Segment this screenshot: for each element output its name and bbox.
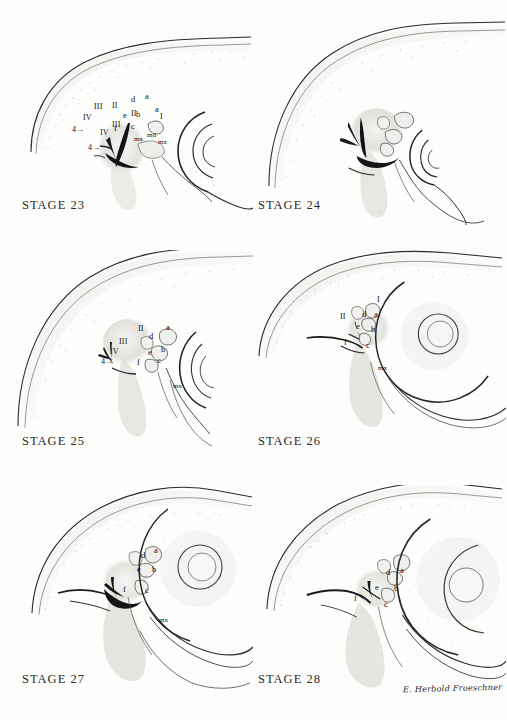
anatomy-label-stage-24-arch4: 4→ <box>72 126 84 134</box>
anatomy-label-stage-24-mx: mx <box>134 136 143 143</box>
anatomy-label-stage-25-IV: IV <box>110 348 119 356</box>
panel-artwork-stage-28 <box>253 485 506 690</box>
anatomy-label-stage-25-mx: mx <box>173 383 182 390</box>
stage-caption-23: STAGE 23 <box>22 198 85 213</box>
stage-caption-24: STAGE 24 <box>258 198 321 213</box>
anatomy-label-stage-24-d: d <box>131 95 135 104</box>
anatomy-label-stage-25-III: III <box>119 338 128 346</box>
panel-artwork-stage-24 <box>253 20 506 225</box>
anatomy-label-stage-28-a: a <box>400 566 404 575</box>
anatomy-label-stage-27-e: e <box>137 565 141 574</box>
anatomy-label-stage-28-d: d <box>386 568 390 577</box>
anatomy-label-stage-25-arch4: 4→ <box>101 358 113 366</box>
anatomy-label-stage-27-a: a <box>154 546 158 555</box>
panel-artwork-stage-27 <box>0 485 253 690</box>
anatomy-label-stage-24-II: II <box>112 102 118 110</box>
anatomy-label-stage-24-c: c <box>131 122 135 131</box>
panel-artwork-stage-23 <box>0 20 253 225</box>
anatomy-label-stage-25-f: f <box>137 358 140 367</box>
anatomy-label-stage-25-d: d <box>149 332 153 341</box>
anatomy-label-stage-26-mx: mx <box>378 365 387 372</box>
anatomy-label-stage-27-b: b <box>152 565 156 574</box>
anatomy-label-stage-25-II: II <box>138 325 144 333</box>
anatomy-label-stage-23-md: md <box>147 132 156 139</box>
anatomy-label-stage-26-I: I <box>377 296 380 304</box>
anatomy-label-stage-27-mx: mx <box>159 617 168 624</box>
anatomy-label-stage-28-f: f <box>354 594 357 603</box>
anatomy-label-stage-25-b: b <box>161 345 165 354</box>
stage-caption-25: STAGE 25 <box>22 434 85 449</box>
anatomy-label-stage-23-IV: IV <box>100 129 109 137</box>
anatomy-label-stage-25-e: e <box>148 348 152 357</box>
panel-artwork-stage-26 <box>253 250 506 455</box>
anatomy-label-stage-24-e: e <box>123 111 127 120</box>
anatomy-label-stage-26-b: b <box>371 325 375 334</box>
anatomy-label-stage-25-c: c <box>157 356 161 365</box>
anatomy-label-stage-26-f: f <box>344 338 347 347</box>
anatomy-label-stage-24-IV: IV <box>83 114 92 122</box>
anatomy-label-stage-26-a: a <box>374 310 378 319</box>
anatomy-label-stage-26-c: c <box>366 341 370 350</box>
anatomy-label-stage-24-b: b <box>136 110 140 119</box>
anatomy-label-stage-23-a: a <box>155 105 159 114</box>
illustration-plate: 4→IVIIIIIaImdmx4→IVIIIIIdaebfcmx4→IVIIII… <box>0 0 507 720</box>
panel-artwork-stage-25 <box>0 250 253 455</box>
anatomy-label-stage-24-f: f <box>114 124 117 133</box>
anatomy-label-stage-25-a: a <box>166 323 170 332</box>
anatomy-label-stage-26-II: II <box>340 313 346 321</box>
anatomy-label-stage-23-I: I <box>160 113 163 121</box>
stage-caption-28: STAGE 28 <box>258 672 321 687</box>
anatomy-label-stage-28-c: c <box>384 600 388 609</box>
stage-caption-27: STAGE 27 <box>22 672 85 687</box>
panel-stage-25 <box>0 250 253 490</box>
panel-stage-24 <box>253 20 506 260</box>
anatomy-label-stage-27-f: f <box>123 585 126 594</box>
anatomy-label-stage-28-e: e <box>375 583 379 592</box>
anatomy-label-stage-26-d: d <box>362 310 366 319</box>
panel-stage-23 <box>0 20 253 260</box>
anatomy-label-stage-28-b: b <box>394 584 398 593</box>
anatomy-label-stage-24-III: III <box>94 103 103 111</box>
anatomy-label-stage-23-arch4: 4→ <box>88 144 100 152</box>
anatomy-label-stage-27-c: c <box>145 586 149 595</box>
anatomy-label-stage-24-a: a <box>145 92 149 101</box>
anatomy-label-stage-27-d: d <box>141 551 145 560</box>
stage-caption-26: STAGE 26 <box>258 434 321 449</box>
anatomy-label-stage-26-e: e <box>356 322 360 331</box>
anatomy-label-stage-23-mx: mx <box>158 139 167 146</box>
